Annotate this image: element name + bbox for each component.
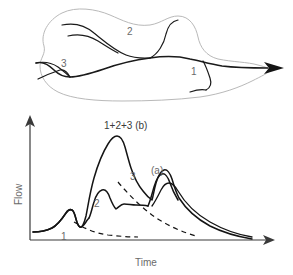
tributary-2-right <box>150 20 178 58</box>
x-axis-title: Time <box>135 258 157 268</box>
basin-label-2: 2 <box>127 27 133 37</box>
subcatchment-1-curve <box>33 210 89 232</box>
combined-curve-label: 1+2+3 (b) <box>104 121 147 131</box>
basin-boundary-outline <box>40 9 271 101</box>
peak-1-label: 1 <box>61 232 67 242</box>
catchment-basin-map <box>0 0 293 112</box>
tributary-2-branch <box>68 35 118 53</box>
tributary-1-main <box>203 61 211 90</box>
basin-label-1: 1 <box>191 67 197 77</box>
main-river-channel <box>36 57 268 77</box>
basin-label-3: 3 <box>61 59 67 69</box>
routed-curve-label: (a) <box>151 166 163 176</box>
hydrograph-figure: 2 3 1 1+2+3 (b) (a) 3 2 1 Flow Time <box>0 0 293 275</box>
tributary-1-branch <box>190 90 206 92</box>
flow-hydrograph-plot <box>0 110 293 275</box>
baseflow-curve-upper <box>118 182 196 236</box>
tributary-2-main <box>62 24 150 58</box>
peak-3-label: 3 <box>130 172 136 182</box>
routed-hydrograph-curve-a <box>152 183 252 237</box>
combined-hydrograph-curve-b <box>33 136 252 239</box>
peak-2-label: 2 <box>94 199 100 209</box>
y-axis-title: Flow <box>14 184 24 205</box>
subcatchment-3-curve <box>148 174 178 206</box>
